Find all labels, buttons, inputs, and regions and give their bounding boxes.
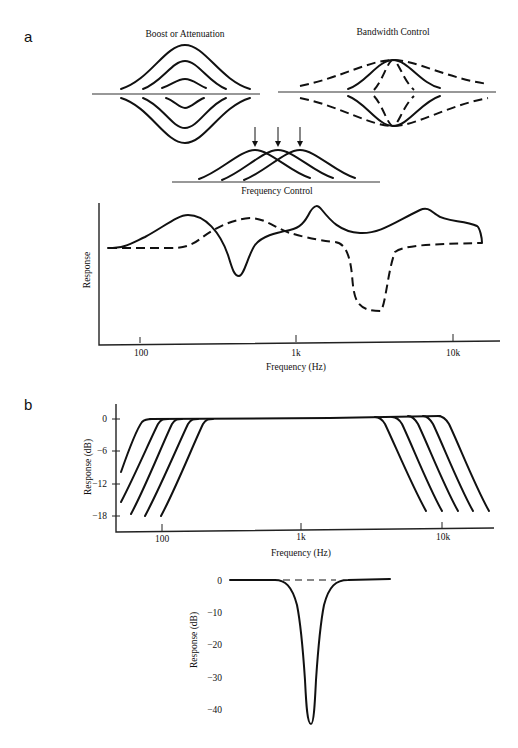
arrow-icon [252, 127, 303, 147]
chart-a-axes [99, 203, 500, 345]
tick-label-1k: 1k [291, 348, 301, 358]
lp-slope-5 [438, 416, 489, 511]
cut-curve-small [166, 98, 204, 108]
y-tick-minus10: −10 [207, 608, 222, 618]
frequency-control-illustration: Frequency Control [172, 127, 380, 196]
lp-slope-1 [375, 417, 426, 511]
frequency-control-title: Frequency Control [241, 186, 313, 196]
boost-attenuation-illustration: Boost or Attenuation [92, 29, 260, 143]
y-tick-minus40: −40 [207, 705, 222, 715]
chart-b2-notch: 0 −10 −20 −30 −40 Response (dB) [189, 576, 390, 724]
x-axis-label: Frequency (Hz) [271, 548, 331, 559]
medium-cut-curve [348, 96, 440, 126]
freq-curve-mid [222, 150, 333, 180]
tick-label-1k: 1k [296, 532, 306, 542]
bandwidth-control-title: Bandwidth Control [356, 27, 429, 37]
panel-label-b: b [24, 396, 32, 413]
notch-curve [230, 579, 390, 724]
y-tick-minus12: −12 [92, 479, 107, 489]
y-tick-minus18: −18 [92, 511, 107, 521]
boost-attenuation-title: Boost or Attenuation [145, 29, 224, 39]
panel-label-a: a [24, 28, 33, 45]
wide-cut-dashed [300, 98, 488, 126]
y-axis-label: Response (dB) [189, 612, 200, 668]
y-tick-0: 0 [102, 414, 107, 424]
tick-label-100: 100 [155, 534, 170, 544]
boost-curve-large [121, 45, 250, 89]
series-dashed [108, 218, 482, 311]
chart-a: 100 1k 10k Frequency (Hz) Response [82, 203, 500, 373]
hp-slope-2 [121, 419, 168, 502]
tick-label-10k: 10k [436, 532, 451, 542]
lp-slope-2 [392, 417, 442, 511]
y-tick-minus30: −30 [207, 673, 222, 683]
bandwidth-control-illustration: Bandwidth Control [278, 27, 496, 126]
y-tick-0: 0 [217, 576, 222, 586]
y-axis-label: Response [82, 252, 92, 288]
y-tick-minus20: −20 [207, 640, 222, 650]
medium-boost-curve [348, 60, 440, 89]
cut-curve-large [121, 98, 250, 143]
tick-label-100: 100 [134, 348, 149, 358]
y-axis-label: Response (dB) [83, 439, 94, 495]
x-axis-label: Frequency (Hz) [266, 362, 326, 373]
freq-curve-high [244, 150, 355, 180]
figure: a b Boost or Attenuation Bandwidth Contr… [0, 0, 518, 748]
chart-b1: 0 −6 −12 −18 Response (dB) 100 1k 10k Fr… [83, 404, 494, 559]
y-tick-minus6: −6 [97, 446, 107, 456]
boost-curve-small [162, 79, 206, 88]
series-solid [108, 206, 482, 276]
tick-label-10k: 10k [446, 348, 461, 358]
wide-boost-dashed [300, 60, 488, 86]
